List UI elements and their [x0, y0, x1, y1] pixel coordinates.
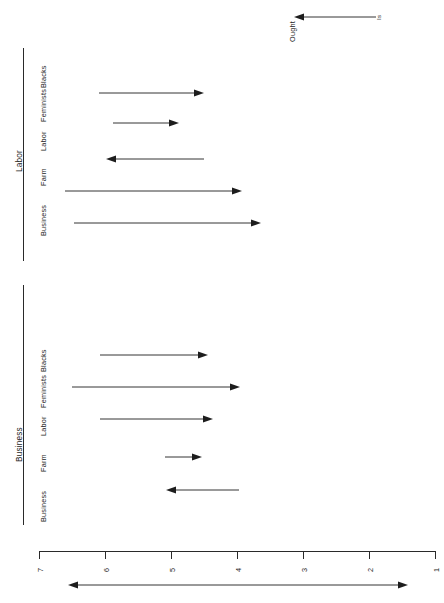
axis-tick-1: [435, 551, 436, 559]
arrow-business-feminists: [72, 382, 240, 392]
axis-tick-label-1: 1: [432, 568, 441, 572]
panel-spine-labor: [23, 48, 24, 261]
panel-labor-category-farm: Farm: [39, 168, 48, 186]
arrow-business-business: [166, 485, 239, 495]
axis-tick-3: [303, 551, 304, 559]
axis-tick-5: [171, 551, 172, 559]
axis-tick-label-3: 3: [300, 568, 309, 572]
panel-business-category-feminists: Feminists: [39, 375, 48, 408]
panel-labor-category-labor: Labor: [39, 131, 48, 151]
axis-range-double-arrow: [68, 580, 408, 590]
figure-canvas: Ought Is Labor Blacks Feminists Labor Fa…: [0, 0, 444, 603]
axis-tick-6: [105, 551, 106, 559]
panel-spine-business: [23, 285, 24, 525]
legend-is-label: Is: [375, 15, 382, 20]
arrow-labor-business: [74, 218, 261, 228]
panel-business-category-farm: Farm: [39, 454, 48, 472]
axis-tick-4: [237, 551, 238, 559]
panel-labor-category-blacks: Blacks: [39, 65, 48, 88]
arrow-business-labor: [100, 414, 213, 424]
axis-tick-label-7: 7: [36, 568, 45, 572]
axis-tick-7: [39, 551, 40, 559]
panel-labor-category-feminists: Feminists: [39, 89, 48, 122]
legend-arrow-icon: [294, 8, 376, 26]
panel-business-category-labor: Labor: [39, 416, 48, 436]
axis-tick-2: [369, 551, 370, 559]
panel-labor-category-business: Business: [39, 205, 48, 236]
arrow-business-farm: [165, 452, 202, 462]
arrow-labor-farm: [65, 186, 242, 196]
arrow-labor-feminists: [113, 118, 179, 128]
arrow-labor-blacks: [99, 88, 204, 98]
panel-business-category-business: Business: [39, 491, 48, 522]
panel-business-category-blacks: Blacks: [39, 349, 48, 372]
arrow-business-blacks: [100, 350, 208, 360]
axis-tick-label-5: 5: [168, 568, 177, 572]
axis-tick-label-2: 2: [366, 568, 375, 572]
axis-tick-label-4: 4: [234, 568, 243, 572]
axis-tick-label-6: 6: [102, 568, 111, 572]
arrow-labor-labor: [106, 154, 204, 164]
